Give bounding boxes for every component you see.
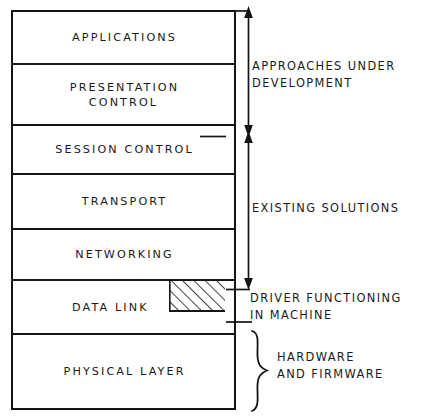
osi-layer-stack: APPLICATIONS PRESENTATION CONTROL SESSIO… [11,10,236,410]
layer-box-applications: APPLICATIONS [13,12,234,63]
layer-box-transport: TRANSPORT [13,175,234,228]
lower-arrow-head-top [244,131,253,143]
hatch-pattern-icon [169,279,225,312]
hardware-firmware-brace [252,331,267,411]
annotation-existing-solutions: EXISTING SOLUTIONS [252,200,399,217]
layer-label-session-control: SESSION CONTROL [53,142,194,157]
layer-label-presentation-control: PRESENTATION CONTROL [68,80,179,110]
layer-box-presentation-control: PRESENTATION CONTROL [13,65,234,124]
layer-label-applications: APPLICATIONS [70,30,177,45]
lower-arrow-head-bottom [244,278,253,290]
layer-label-networking: NETWORKING [73,247,174,262]
layered-protocol-diagram: APPLICATIONS PRESENTATION CONTROL SESSIO… [0,0,429,419]
annotation-approaches-under-development: APPROACHES UNDER DEVELOPMENT [252,58,396,92]
annotation-driver-functioning-in-machine: DRIVER FUNCTIONING IN MACHINE [250,290,402,324]
layer-label-data-link: DATA LINK [70,300,149,315]
upper-arrow-head-top [244,6,253,18]
upper-arrow-head-bottom [244,125,253,137]
layer-box-session-control: SESSION CONTROL [13,126,234,173]
layer-label-transport: TRANSPORT [80,194,168,209]
layer-box-physical-layer: PHYSICAL LAYER [13,335,234,408]
driver-hatched-region [169,279,225,312]
layer-label-physical-layer: PHYSICAL LAYER [61,364,185,379]
annotation-hardware-and-firmware: HARDWARE AND FIRMWARE [277,349,384,383]
layer-box-networking: NETWORKING [13,230,234,279]
